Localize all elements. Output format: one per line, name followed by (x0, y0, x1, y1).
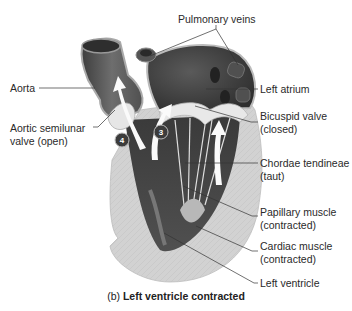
label-bicuspid-line1: Bicuspid valve (260, 110, 327, 123)
svg-text:3: 3 (159, 128, 164, 137)
label-aortic-line1: Aortic semilunar (10, 122, 85, 135)
label-bicuspid-line2: (closed) (260, 123, 327, 136)
pulmonary-vein-right-lower (236, 88, 250, 102)
label-bicuspid-valve: Bicuspid valve (closed) (260, 110, 327, 135)
vein-opening (220, 90, 230, 104)
label-papillary-line1: Papillary muscle (260, 206, 336, 219)
label-papillary-line2: (contracted) (260, 219, 336, 232)
label-left-atrium: Left atrium (260, 83, 310, 96)
vein-opening (140, 50, 152, 57)
label-aorta: Aorta (10, 82, 35, 95)
vein-opening (210, 67, 220, 83)
label-aortic-line2: valve (open) (10, 135, 85, 148)
svg-text:4: 4 (120, 136, 125, 145)
label-chordae-line2: (taut) (260, 170, 349, 183)
label-cardiac-muscle: Cardiac muscle (contracted) (260, 240, 332, 265)
label-aortic-semilunar-valve: Aortic semilunar valve (open) (10, 122, 85, 147)
figure-caption: (b) Left ventricle contracted (0, 290, 352, 302)
label-cardiac-line2: (contracted) (260, 253, 332, 266)
aorta-opening (82, 39, 120, 53)
label-cardiac-line1: Cardiac muscle (260, 240, 332, 253)
label-chordae-tendineae: Chordae tendineae (taut) (260, 157, 349, 182)
caption-prefix: (b) (107, 290, 120, 302)
label-pulmonary-veins: Pulmonary veins (178, 13, 256, 26)
marker-4: 4 (115, 133, 129, 147)
label-papillary-muscle: Papillary muscle (contracted) (260, 206, 336, 231)
label-chordae-line1: Chordae tendineae (260, 157, 349, 170)
label-left-ventricle: Left ventricle (260, 277, 320, 290)
marker-3: 3 (154, 125, 168, 139)
caption-title: Left ventricle contracted (123, 290, 245, 302)
